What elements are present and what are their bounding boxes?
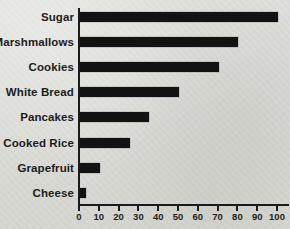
category-label: Marshmallows (0, 36, 74, 48)
x-axis-tick (78, 204, 80, 211)
x-axis-tick (177, 204, 179, 211)
x-axis-tick (256, 204, 258, 211)
category-label: Cooked Rice (3, 137, 74, 149)
x-axis-tick (118, 204, 120, 211)
category-label: Pancakes (20, 111, 74, 123)
x-axis-tick-label: 70 (212, 211, 223, 222)
x-axis-tick (157, 204, 159, 211)
category-label: Sugar (41, 11, 74, 23)
bar (80, 112, 149, 122)
x-axis-tick-label: 80 (232, 211, 243, 222)
category-label: Cookies (29, 61, 74, 73)
x-axis-tick (137, 204, 139, 211)
x-axis-tick-label: 10 (94, 211, 105, 222)
x-axis-tick (236, 204, 238, 211)
bar (80, 188, 86, 198)
bar (80, 87, 179, 97)
category-label: Grapefruit (17, 162, 74, 174)
x-axis-tick-label: 0 (76, 211, 81, 222)
bar (80, 163, 100, 173)
bar (80, 12, 278, 22)
category-label: White Bread (6, 86, 74, 98)
x-axis-tick (276, 204, 278, 211)
x-axis-tick-label: 50 (173, 211, 184, 222)
bar-chart: SugarMarshmallowsCookiesWhite BreadPanca… (0, 0, 290, 229)
x-axis-tick (98, 204, 100, 211)
x-axis-tick-label: 40 (153, 211, 164, 222)
bar (80, 37, 238, 47)
bar (80, 138, 130, 148)
x-axis-tick (197, 204, 199, 211)
bar (80, 62, 219, 72)
category-label: Cheese (32, 187, 74, 199)
x-axis-tick-label: 90 (252, 211, 263, 222)
x-axis-tick (217, 204, 219, 211)
x-axis-tick-label: 30 (133, 211, 144, 222)
x-axis-tick-label: 60 (193, 211, 204, 222)
x-axis-tick-label: 100 (269, 211, 285, 222)
x-axis-tick-label: 20 (113, 211, 124, 222)
